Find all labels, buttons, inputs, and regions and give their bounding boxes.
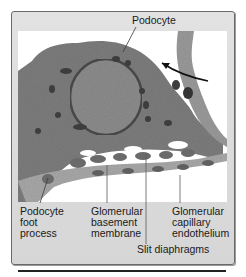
podocyte-micrograph (18, 31, 227, 202)
label-endothelium: Glomerular capillary endothelium (172, 206, 229, 239)
cell-nucleus-small (183, 87, 193, 99)
label-foot-process: Podocyte foot process (20, 206, 64, 239)
label-gbm: Glomerular basement membrane (91, 206, 143, 239)
label-slit-diaphragms: Slit diaphragms (137, 244, 209, 255)
flow-arrow-head (162, 63, 170, 69)
caption-rule (18, 270, 226, 272)
label-podocyte: Podocyte (132, 15, 176, 26)
nucleus (70, 59, 142, 135)
micrograph-image (18, 31, 227, 202)
